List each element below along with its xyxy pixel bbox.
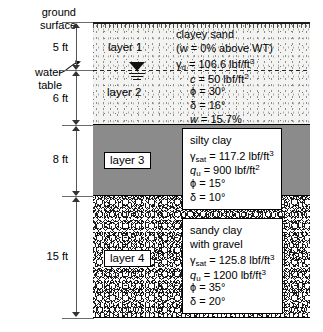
layer-2-cohesion-exponent: 2 — [244, 72, 248, 81]
soil-profile-diagram: ground surface water table 5 ft 6 ft 8 f… — [0, 0, 323, 332]
phi-symbol: ϕ — [190, 177, 196, 189]
layer-2-water-content: w = 15.7% — [176, 112, 273, 126]
phi-symbol: ϕ — [190, 281, 196, 293]
layer-3-friction-angle-value: = 15° — [199, 177, 225, 189]
extension-tick-layer3-4 — [62, 196, 94, 197]
water-table-bar-3 — [133, 79, 141, 80]
water-table-label-line1: water — [4, 66, 62, 79]
layer-4-unit-weight-exponent: 3 — [270, 253, 274, 262]
layer-1-water-note: (w = 0% above WT) — [176, 41, 273, 55]
water-table-bar-1 — [129, 73, 145, 74]
dimension-label-6ft: 6 ft — [24, 92, 68, 104]
delta-symbol: δ — [190, 99, 196, 111]
layer-3-tag: layer 3 — [104, 152, 151, 169]
layer-4-wall-friction-value: = 20° — [199, 295, 225, 307]
layer-2-tag: layer 2 — [104, 85, 145, 100]
extension-tick-water-table — [62, 70, 94, 71]
dimension-label-8ft: 8 ft — [24, 153, 68, 165]
dimension-arrow-5ft-top — [72, 23, 80, 28]
layer-4-unconfined-strength: qu = 1200 lbf/ft3 — [190, 266, 275, 280]
layer-4-friction-angle-value: = 35° — [199, 281, 225, 293]
ground-surface-label-line2: surface — [14, 19, 76, 32]
dimension-line-8ft — [76, 129, 77, 192]
layer-3-unconfined-exponent: 2 — [255, 163, 259, 172]
layer-3-wall-friction-angle: δ = 10° — [190, 190, 274, 204]
dimension-line-15ft — [76, 200, 77, 314]
dimension-line-5ft — [76, 26, 77, 67]
layer-4-unit-weight: γsat = 125.8 lbf/ft3 — [190, 251, 275, 265]
dimension-arrow-8ft-top — [72, 126, 80, 131]
delta-symbol: δ — [190, 295, 196, 307]
water-table-label-line2: table — [4, 79, 62, 92]
layer-4-wall-friction-angle: δ = 20° — [190, 294, 275, 308]
layer-1-unit-weight: γd = 106.6 lbf/ft3 — [176, 55, 273, 69]
ground-surface-label-line1: ground — [14, 6, 76, 19]
layer-4-unconfined-strength-value: = 1200 lbf/ft — [204, 269, 262, 281]
layer-3-unconfined-strength-value: = 900 lbf/ft — [204, 164, 256, 176]
layer-2-cohesion-value: = 50 lbf/ft — [199, 73, 245, 85]
layer-2-wall-friction-angle: δ = 16° — [176, 98, 273, 112]
layer-2-wall-friction-value: = 16° — [199, 99, 225, 111]
w-symbol: w — [190, 113, 198, 125]
layer-4-unit-weight-value: = 125.8 lbf/ft — [209, 254, 270, 266]
layer-4-soil-name-line1: sandy clay — [190, 223, 275, 237]
extension-tick-layer2-3 — [62, 125, 94, 126]
dimension-label-5ft: 5 ft — [24, 41, 68, 53]
layer-3-unit-weight-value: = 117.2 lbf/ft — [209, 150, 269, 162]
layer-1-2-properties: clayey sand (w = 0% above WT) γd = 106.6… — [176, 27, 273, 126]
dimension-line-6ft — [76, 74, 77, 122]
layer-3-unit-weight: γsat = 117.2 lbf/ft3 — [190, 147, 274, 161]
gamma-subscript-d: d — [182, 63, 186, 72]
extension-tick-bottom — [62, 318, 94, 319]
dimension-arrow-15ft-top — [72, 197, 80, 202]
water-table-triangle-icon — [129, 62, 145, 71]
water-table-label: water table — [4, 66, 62, 91]
dimension-arrow-15ft-bottom — [72, 312, 80, 317]
water-table-bar-2 — [131, 76, 143, 77]
c-symbol: c — [190, 73, 196, 85]
layer-3-friction-angle: ϕ = 15° — [190, 176, 274, 190]
layer-1-unit-weight-exponent: 3 — [250, 57, 254, 66]
layer-2-water-content-value: = 15.7% — [201, 113, 242, 125]
layer-3-unconfined-strength: qu = 900 lbf/ft2 — [190, 161, 274, 175]
layer-2-friction-angle-value: = 30° — [199, 85, 225, 97]
layer-2-friction-angle: ϕ = 30° — [176, 84, 273, 98]
layer-1-unit-weight-value: = 106.6 lbf/ft — [189, 58, 250, 70]
boundary-bottom — [93, 317, 310, 318]
layer-4-soil-name-line2: with gravel — [190, 237, 275, 251]
layer-4-tag: layer 4 — [104, 250, 151, 267]
ground-surface-label: ground surface — [14, 6, 76, 31]
dimension-label-15ft: 15 ft — [22, 250, 68, 262]
layer-4-friction-angle: ϕ = 35° — [190, 280, 275, 294]
layer-1-tag: layer 1 — [105, 40, 146, 55]
delta-symbol: δ — [190, 191, 196, 203]
dimension-arrow-6ft-top — [72, 71, 80, 76]
layer-2-cohesion: c = 50 lbf/ft2 — [176, 70, 273, 84]
layer-4-properties: sandy clay with gravel γsat = 125.8 lbf/… — [182, 218, 283, 314]
layer-3-properties: silty clay γsat = 117.2 lbf/ft3 qu = 900… — [182, 128, 282, 210]
layer-4-unconfined-exponent: 3 — [261, 268, 265, 277]
layer-3-soil-name: silty clay — [190, 133, 274, 147]
layer-3-wall-friction-value: = 10° — [199, 191, 225, 203]
phi-symbol: ϕ — [190, 85, 196, 97]
layer-1-soil-name: clayey sand — [176, 27, 273, 41]
extension-tick-ground — [62, 22, 94, 23]
layer-3-unit-weight-exponent: 3 — [269, 149, 273, 158]
